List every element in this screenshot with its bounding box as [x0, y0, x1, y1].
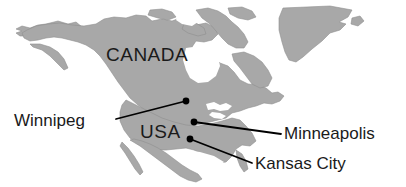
city-label-winnipeg: Winnipeg — [14, 112, 85, 129]
city-label-kansas-city: Kansas City — [255, 155, 346, 172]
country-label-usa: USA — [140, 122, 181, 141]
city-label-minneapolis: Minneapolis — [284, 125, 375, 142]
country-label-canada: CANADA — [106, 45, 188, 64]
map-figure: CANADA USA Winnipeg Minneapolis Kansas C… — [0, 0, 406, 187]
city-marker-winnipeg[interactable] — [183, 98, 190, 105]
city-marker-minneapolis[interactable] — [191, 119, 198, 126]
city-marker-kansas-city[interactable] — [187, 136, 194, 143]
